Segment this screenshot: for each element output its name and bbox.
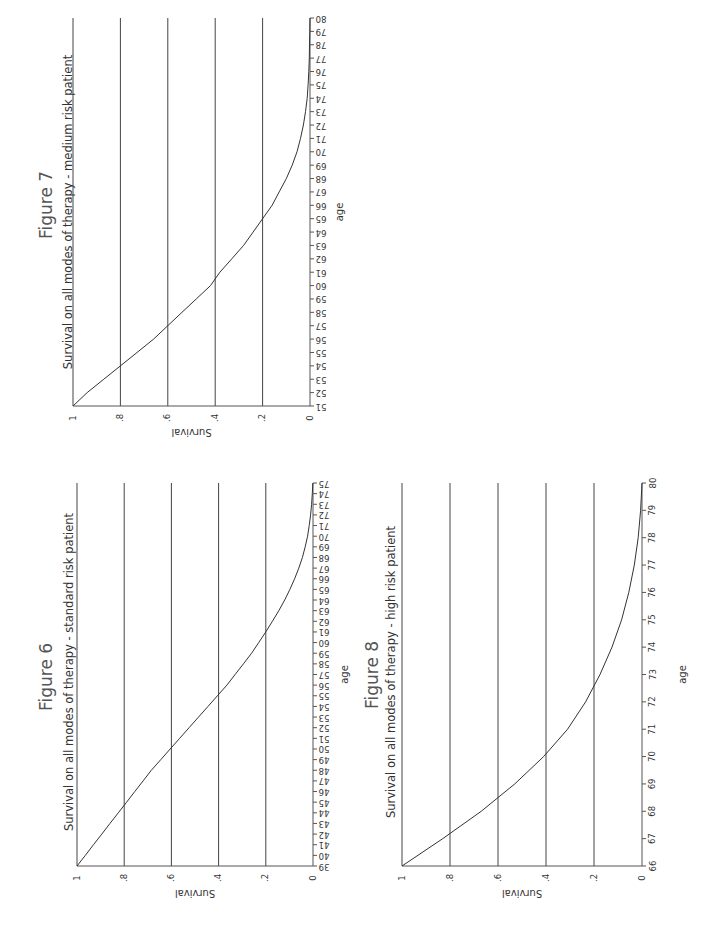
figure-title: Figure 7 bbox=[36, 171, 56, 239]
age-tick-label: 60 bbox=[316, 281, 327, 291]
age-tick-label: 80 bbox=[316, 14, 327, 24]
y-axis-label: Survival bbox=[171, 427, 211, 438]
figure-8-chart: 1.8.6.4.20666768697071727374757677787980… bbox=[362, 478, 688, 899]
age-tick-label: 74 bbox=[316, 94, 327, 104]
y-axis-label: Survival bbox=[502, 888, 542, 899]
survival-tick-label: .2 bbox=[260, 874, 270, 882]
age-tick-label: 40 bbox=[319, 851, 330, 861]
survival-tick-label: 0 bbox=[305, 415, 315, 420]
survival-tick-label: .6 bbox=[493, 874, 503, 882]
age-tick-label: 70 bbox=[316, 147, 327, 157]
age-tick-label: 45 bbox=[319, 798, 330, 808]
survival-tick-label: .4 bbox=[541, 874, 551, 882]
age-tick-label: 57 bbox=[319, 670, 330, 680]
age-tick-label: 77 bbox=[316, 54, 327, 64]
age-tick-label: 78 bbox=[648, 532, 658, 543]
age-tick-label: 58 bbox=[319, 659, 330, 669]
age-tick-label: 57 bbox=[316, 321, 327, 331]
figure-title: Figure 6 bbox=[36, 643, 56, 711]
age-tick-label: 42 bbox=[319, 830, 330, 840]
x-axis-label: age bbox=[339, 665, 350, 684]
age-tick-label: 70 bbox=[319, 532, 330, 542]
survival-tick-label: .2 bbox=[257, 414, 267, 422]
age-tick-label: 39 bbox=[319, 862, 330, 872]
age-tick-label: 72 bbox=[319, 510, 330, 520]
age-tick-label: 79 bbox=[316, 27, 327, 37]
age-tick-label: 70 bbox=[648, 751, 658, 762]
survival-tick-label: .4 bbox=[213, 874, 223, 882]
survival-tick-label: .4 bbox=[210, 414, 220, 422]
survival-curve bbox=[73, 18, 310, 406]
figures-page: 1.8.6.4.20515253545556575859606162636465… bbox=[0, 0, 710, 944]
age-tick-label: 69 bbox=[316, 161, 327, 171]
age-tick-label: 78 bbox=[316, 40, 327, 50]
survival-tick-label: .6 bbox=[162, 414, 172, 422]
age-tick-label: 53 bbox=[319, 713, 330, 723]
age-tick-label: 52 bbox=[316, 388, 327, 398]
age-tick-label: 51 bbox=[319, 734, 330, 744]
age-tick-label: 72 bbox=[648, 696, 658, 707]
y-axis-label: Survival bbox=[175, 888, 215, 899]
age-tick-label: 64 bbox=[319, 596, 330, 606]
age-tick-label: 71 bbox=[319, 521, 330, 531]
age-tick-label: 73 bbox=[319, 500, 330, 510]
age-tick-label: 76 bbox=[648, 587, 658, 598]
age-tick-label: 75 bbox=[319, 479, 330, 489]
figure-title: Figure 8 bbox=[362, 641, 382, 709]
survival-tick-label: 1 bbox=[397, 875, 407, 880]
survival-tick-label: 0 bbox=[637, 875, 647, 880]
age-tick-label: 58 bbox=[316, 308, 327, 318]
figure-subtitle: Survival on all modes of therapy - mediu… bbox=[61, 54, 75, 369]
age-tick-label: 48 bbox=[319, 766, 330, 776]
age-tick-label: 72 bbox=[316, 121, 327, 131]
age-tick-label: 61 bbox=[316, 268, 327, 278]
age-tick-label: 71 bbox=[648, 724, 658, 735]
age-tick-label: 76 bbox=[316, 67, 327, 77]
age-tick-label: 63 bbox=[316, 241, 327, 251]
age-tick-label: 54 bbox=[319, 702, 330, 712]
age-tick-label: 56 bbox=[319, 681, 330, 691]
figure-6-chart: 1.8.6.4.20394041424344454647484950515253… bbox=[36, 479, 350, 900]
age-tick-label: 59 bbox=[319, 649, 330, 659]
age-tick-label: 67 bbox=[316, 187, 327, 197]
age-tick-label: 73 bbox=[648, 669, 658, 680]
age-tick-label: 41 bbox=[319, 840, 330, 850]
survival-tick-label: .8 bbox=[445, 874, 455, 882]
age-tick-label: 60 bbox=[319, 638, 330, 648]
age-tick-label: 61 bbox=[319, 627, 330, 637]
age-tick-label: 55 bbox=[319, 691, 330, 701]
figure-subtitle: Survival on all modes of therapy - stand… bbox=[62, 512, 76, 831]
age-tick-label: 50 bbox=[319, 744, 330, 754]
age-tick-label: 51 bbox=[316, 402, 327, 412]
x-axis-label: age bbox=[677, 665, 688, 684]
age-tick-label: 69 bbox=[648, 779, 658, 790]
age-tick-label: 79 bbox=[648, 505, 658, 516]
age-tick-label: 47 bbox=[319, 776, 330, 786]
age-tick-label: 67 bbox=[319, 564, 330, 574]
age-tick-label: 62 bbox=[316, 254, 327, 264]
age-tick-label: 54 bbox=[316, 361, 327, 371]
age-tick-label: 64 bbox=[316, 228, 327, 238]
age-tick-label: 43 bbox=[319, 819, 330, 829]
age-tick-label: 69 bbox=[319, 542, 330, 552]
age-tick-label: 75 bbox=[648, 614, 658, 625]
age-tick-label: 77 bbox=[648, 560, 658, 571]
age-tick-label: 75 bbox=[316, 80, 327, 90]
age-tick-label: 67 bbox=[648, 833, 658, 844]
age-tick-label: 74 bbox=[648, 642, 658, 653]
survival-tick-label: 0 bbox=[308, 875, 318, 880]
survival-tick-label: .6 bbox=[166, 874, 176, 882]
age-tick-label: 80 bbox=[648, 478, 658, 489]
age-tick-label: 68 bbox=[319, 553, 330, 563]
age-tick-label: 46 bbox=[319, 787, 330, 797]
age-tick-label: 66 bbox=[316, 201, 327, 211]
age-tick-label: 53 bbox=[316, 375, 327, 385]
figure-subtitle: Survival on all modes of therapy - high … bbox=[384, 525, 398, 818]
age-tick-label: 68 bbox=[648, 806, 658, 817]
survival-tick-label: 1 bbox=[68, 415, 78, 420]
age-tick-label: 73 bbox=[316, 107, 327, 117]
age-tick-label: 49 bbox=[319, 755, 330, 765]
figure-7-chart: 1.8.6.4.20515253545556575859606162636465… bbox=[36, 14, 345, 439]
age-tick-label: 66 bbox=[648, 861, 658, 872]
age-tick-label: 56 bbox=[316, 335, 327, 345]
